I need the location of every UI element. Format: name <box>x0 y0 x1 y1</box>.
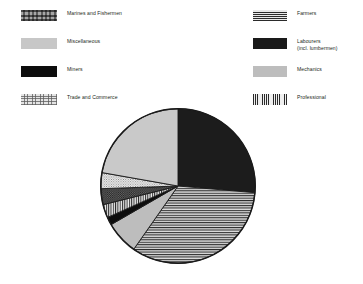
legend-item[interactable]: Farmers <box>253 9 338 31</box>
pie-chart-figure: Marines and Fishermen Miscellaneous Mine… <box>0 0 363 284</box>
legend-right-column: Farmers Labourers (incl. lumbermen) Mech… <box>253 9 338 121</box>
legend-swatch-labourers <box>253 38 287 49</box>
legend-item[interactable]: Marines and Fishermen <box>21 9 122 31</box>
legend-label-professional: Professional <box>297 93 326 101</box>
legend-item[interactable]: Professional <box>253 93 338 115</box>
legend-item[interactable]: Labourers (incl. lumbermen) <box>253 37 338 59</box>
legend-label-trade-and-commerce: Trade and Commerce <box>67 93 118 101</box>
legend-label-mechanics: Mechanics <box>297 65 322 73</box>
pie-chart <box>99 107 257 265</box>
legend-left-column: Marines and Fishermen Miscellaneous Mine… <box>21 9 122 121</box>
legend-item[interactable]: Mechanics <box>253 65 338 87</box>
legend-swatch-miscellaneous <box>21 38 57 49</box>
legend-label-miscellaneous: Miscellaneous <box>67 37 100 45</box>
legend-swatch-marines-and-fishermen <box>21 10 57 21</box>
legend-item[interactable]: Miners <box>21 65 122 87</box>
legend-label-marines-and-fishermen: Marines and Fishermen <box>67 9 122 17</box>
legend-label-labourers: Labourers (incl. lumbermen) <box>297 37 338 52</box>
legend-swatch-trade-and-commerce <box>21 94 57 105</box>
pie-slice[interactable] <box>102 109 178 186</box>
pie-slice[interactable] <box>178 109 255 193</box>
legend-swatch-professional <box>253 94 287 105</box>
legend-item[interactable]: Miscellaneous <box>21 37 122 59</box>
legend-swatch-farmers <box>253 10 287 21</box>
legend-label-miners: Miners <box>67 65 83 73</box>
legend-label-farmers: Farmers <box>297 9 316 17</box>
legend-swatch-mechanics <box>253 66 287 77</box>
legend-swatch-miners <box>21 66 57 77</box>
pie-chart-svg <box>99 107 257 265</box>
